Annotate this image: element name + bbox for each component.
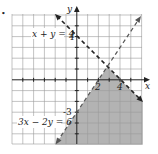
tick-label-x-2: 2 <box>94 82 101 92</box>
arrow-up-right-icon <box>135 16 141 23</box>
equation-label-x-plus-y: x + y = 4 <box>32 29 75 39</box>
problem-marker: • <box>1 9 6 18</box>
equation-label-3x-minus-2y: 3x − 2y = 6 <box>18 117 72 127</box>
tick-label-x-4: 4 <box>116 82 123 92</box>
y-axis-label: y <box>66 4 73 14</box>
x-axis-label: x <box>145 81 150 91</box>
shaded-solution-region <box>55 67 142 145</box>
inequality-graph: • <box>0 0 158 154</box>
y-axis-arrow-icon <box>74 6 80 12</box>
tick-label-y-neg3: -3 <box>63 107 72 117</box>
